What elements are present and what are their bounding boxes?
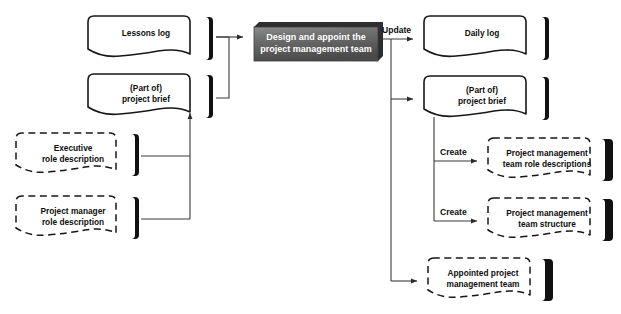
doc-spine-shadow [205, 17, 213, 60]
doc-spine-shadow [131, 134, 139, 176]
process-flow-diagram: Design and appoint the project managemen… [0, 0, 621, 314]
process-label-line1: Design and appoint the [266, 32, 366, 42]
connector-lessons-log-vertical [216, 37, 229, 98]
document-label-line2: project brief [458, 96, 506, 106]
process-label-line2: project management team [260, 44, 372, 54]
doc-spine-shadow [541, 259, 553, 301]
document-label-line2: team structure [518, 219, 576, 229]
document-lessons-log[interactable]: Lessons log [88, 16, 213, 60]
document-label-line1: (Part of) [466, 85, 498, 95]
doc-spine-shadow [541, 17, 549, 60]
doc-spine-shadow [131, 197, 139, 239]
document-pm-team-role-descriptions[interactable]: Project management team role description… [488, 138, 613, 181]
document-label-line1: Project management [506, 208, 588, 218]
document-part-of-project-brief-input[interactable]: (Part of) project brief [88, 74, 213, 118]
doc-spine-shadow [601, 139, 613, 181]
document-label-line2: management team [447, 279, 520, 289]
edge-label-create-2: Create [440, 207, 467, 217]
document-label-line2: role description [42, 217, 104, 227]
document-label-line1: Daily log [465, 28, 500, 38]
document-pm-team-structure[interactable]: Project management team structure [488, 198, 613, 241]
document-project-manager-role-description[interactable]: Project manager role description [16, 196, 139, 239]
document-label-line1: Project management [506, 148, 588, 158]
doc-spine-shadow [601, 199, 613, 241]
edge-label-update: Update [382, 25, 411, 35]
document-appointed-pm-team[interactable]: Appointed project management team [428, 258, 553, 301]
document-label-line2: role description [42, 154, 104, 164]
document-daily-log[interactable]: Daily log [424, 16, 549, 60]
process-box-design-appoint-pm-team[interactable]: Design and appoint the project managemen… [254, 22, 383, 61]
document-label-line1: Project manager [40, 206, 106, 216]
document-part-of-project-brief-output[interactable]: (Part of) project brief [424, 76, 549, 120]
edge-label-create-1: Create [440, 147, 467, 157]
document-label-line1: Lessons log [122, 28, 170, 38]
document-label-line2: project brief [122, 94, 170, 104]
document-label-line1: Appointed project [448, 268, 519, 278]
document-executive-role-description[interactable]: Executive role description [16, 133, 139, 176]
diagram-canvas: Design and appoint the project managemen… [0, 0, 621, 314]
doc-spine-shadow [541, 77, 549, 120]
document-label-line1: (Part of) [130, 83, 162, 93]
doc-spine-shadow [205, 75, 213, 118]
document-label-line2: team role descriptions [503, 159, 592, 169]
connector-group [141, 37, 477, 281]
document-label-line1: Executive [54, 143, 93, 153]
